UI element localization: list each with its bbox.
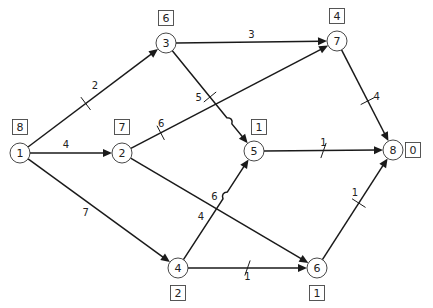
edge-weight-label: 1 <box>244 271 250 282</box>
edge-6-8: 1 <box>322 158 387 259</box>
edge-4-5: 4 <box>183 159 248 259</box>
node-3: 36 <box>156 11 176 54</box>
node-4: 42 <box>168 258 188 301</box>
edge-4-6: 1 <box>188 260 307 281</box>
nodes-layer: 1827364251617480 <box>10 9 421 301</box>
edge-line <box>183 164 245 259</box>
critical-tick <box>81 97 91 110</box>
arrowhead-icon <box>318 37 327 45</box>
node-7: 74 <box>327 9 347 52</box>
edge-weight-label: 4 <box>374 91 380 102</box>
node-8: 80 <box>383 140 421 160</box>
edge-weight-label: 1 <box>352 187 358 198</box>
edge-5-8: 1 <box>264 137 383 158</box>
node-label: 5 <box>251 145 258 158</box>
edge-weight-label: 4 <box>63 139 69 150</box>
edge-3-7: 3 <box>176 29 327 46</box>
node-label: 1 <box>17 147 24 160</box>
edge-1-4: 7 <box>28 159 170 262</box>
edge-line <box>322 163 384 259</box>
node-label: 6 <box>314 262 321 275</box>
arrowhead-icon <box>299 255 309 263</box>
edge-weight-label: 3 <box>248 29 254 40</box>
edges-layer: 247356641141 <box>28 29 388 282</box>
arrowhead-icon <box>298 264 307 272</box>
edge-7-8: 4 <box>342 50 389 141</box>
node-label: 4 <box>175 262 182 275</box>
node-2: 27 <box>112 120 132 164</box>
arrowhead-icon <box>103 149 112 157</box>
edge-weight-label: 7 <box>83 207 89 218</box>
node-value: 1 <box>256 121 263 134</box>
network-diagram: 247356641141 1827364251617480 <box>0 0 433 308</box>
edge-3-5: 5 <box>172 51 247 143</box>
node-label: 8 <box>390 144 397 157</box>
node-value: 4 <box>334 10 341 23</box>
arrowhead-icon <box>148 49 158 58</box>
edge-line <box>28 159 165 259</box>
edge-weight-label: 2 <box>92 80 98 91</box>
arrowhead-icon <box>160 254 170 263</box>
arrowhead-icon <box>240 159 248 169</box>
node-6: 61 <box>307 258 327 301</box>
node-value: 2 <box>175 287 182 300</box>
edge-weight-label: 6 <box>211 191 217 202</box>
edge-line <box>176 41 321 43</box>
edge-line <box>264 150 377 151</box>
node-value: 6 <box>163 12 170 25</box>
arrowhead-icon <box>379 158 387 168</box>
edge-2-6: 6 <box>131 158 309 263</box>
node-value: 0 <box>410 144 417 157</box>
edge-line <box>131 48 323 148</box>
node-label: 7 <box>334 35 341 48</box>
edge-weight-label: 6 <box>158 118 164 129</box>
node-1: 18 <box>10 120 30 164</box>
node-value: 7 <box>119 121 126 134</box>
edge-line <box>28 53 153 147</box>
edge-1-2: 4 <box>30 139 112 158</box>
critical-tick <box>204 92 216 102</box>
node-value: 1 <box>314 287 321 300</box>
node-value: 8 <box>17 121 24 134</box>
node-label: 2 <box>119 147 126 160</box>
edge-weight-label: 5 <box>195 92 201 103</box>
edge-weight-label: 4 <box>198 211 204 222</box>
edge-2-7: 6 <box>131 46 328 149</box>
node-5: 51 <box>244 120 267 162</box>
critical-tick <box>352 199 365 208</box>
edge-1-3: 2 <box>28 49 158 147</box>
node-label: 3 <box>163 37 170 50</box>
edge-weight-label: 1 <box>320 137 326 148</box>
arrowhead-icon <box>374 146 383 154</box>
